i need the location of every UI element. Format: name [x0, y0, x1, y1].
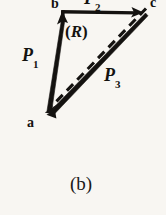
vector-label-p2-letter: P [84, 0, 95, 8]
vector-label-p1-letter: P [22, 45, 33, 65]
figure-caption: (b) [70, 174, 92, 193]
vector-label-p3-letter: P [104, 65, 115, 85]
vector-label-p1: P1 [22, 46, 39, 68]
vector-label-p2-subscript: 2 [95, 1, 101, 13]
vector-label-p3: P3 [104, 66, 121, 88]
vector-label-p3-subscript: 3 [115, 78, 121, 90]
resultant-label-r: (R) [65, 23, 88, 40]
resultant-label-close-paren: ) [82, 22, 88, 41]
resultant-label-letter: R [71, 22, 82, 41]
vertex-label-c: c [150, 0, 156, 10]
vertex-label-b: b [51, 0, 59, 11]
vertex-label-a: a [27, 116, 34, 130]
vector-label-p2: P2 [84, 0, 101, 11]
vector-label-p1-subscript: 1 [33, 58, 39, 70]
vector-diagram-figure: b c a P1 P2 P3 (R) (b) [0, 0, 166, 215]
